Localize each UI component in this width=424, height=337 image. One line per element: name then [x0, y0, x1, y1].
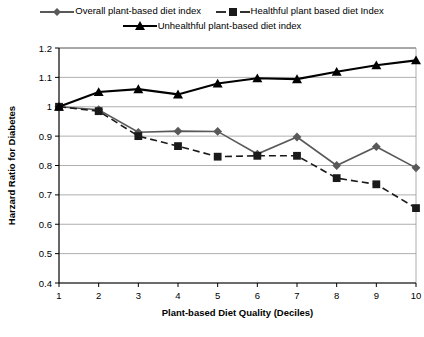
marker-square-3: [134, 132, 142, 140]
y-tick-label-1: 1: [47, 101, 52, 112]
x-tick-label-6: 6: [255, 290, 260, 301]
x-tick-label-9: 9: [374, 290, 379, 301]
marker-square-6: [253, 152, 261, 160]
x-tick-label-4: 4: [175, 290, 180, 301]
x-tick-label-3: 3: [136, 290, 141, 301]
marker-square-7: [293, 152, 301, 160]
x-tick-label-1: 1: [56, 290, 61, 301]
x-tick-label-5: 5: [215, 290, 220, 301]
hazard-ratio-line-chart: Overall plant-based diet index Healthful…: [0, 0, 424, 337]
y-tick-label-0.6: 0.6: [39, 219, 52, 230]
x-tick-label-7: 7: [294, 290, 299, 301]
marker-square-5: [214, 153, 222, 161]
marker-square-2: [95, 107, 103, 115]
y-tick-label-0.7: 0.7: [39, 189, 52, 200]
y-tick-label-1.1: 1.1: [39, 72, 52, 83]
marker-square-9: [372, 180, 380, 188]
marker-square-8: [333, 174, 341, 182]
x-axis-title: Plant-based Diet Quality (Deciles): [162, 307, 314, 318]
y-tick-label-0.5: 0.5: [39, 248, 52, 259]
x-tick-label-10: 10: [411, 290, 422, 301]
x-tick-label-8: 8: [334, 290, 339, 301]
marker-square-10: [412, 204, 420, 212]
marker-square-4: [174, 142, 182, 150]
y-tick-label-0.4: 0.4: [39, 278, 52, 289]
y-tick-label-0.8: 0.8: [39, 160, 52, 171]
y-tick-label-1.2: 1.2: [39, 43, 52, 54]
y-axis-title: Harzard Ratio for Diabetes: [6, 106, 17, 225]
x-tick-label-2: 2: [96, 290, 101, 301]
y-tick-label-0.9: 0.9: [39, 131, 52, 142]
plot-area: 1.21.110.90.80.70.60.50.412345678910Plan…: [0, 0, 424, 337]
